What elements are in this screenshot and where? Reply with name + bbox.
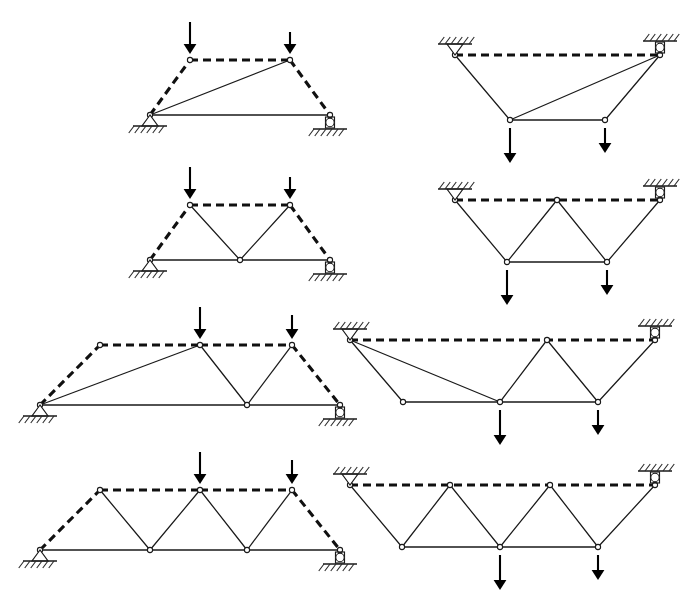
truss-row3-left-supports xyxy=(19,405,357,426)
truss-row3-right-loads xyxy=(494,410,605,445)
ground-hatch-line xyxy=(657,319,662,326)
ground-hatch-line xyxy=(25,416,30,423)
truss-joint xyxy=(497,399,502,404)
ground-hatch-line xyxy=(153,126,158,133)
truss-member-dashed xyxy=(150,205,190,260)
ground-hatch-line xyxy=(651,464,656,471)
truss-row4-right xyxy=(333,464,674,590)
ground-hatch-line xyxy=(349,419,354,426)
truss-joint xyxy=(447,482,452,487)
truss-member-solid xyxy=(607,200,660,262)
ground-hatch-line xyxy=(129,271,134,278)
truss-member-solid xyxy=(350,485,402,547)
ground-hatch-line xyxy=(321,129,326,136)
truss-row4-left-dashed-members xyxy=(40,490,340,550)
truss-member-solid xyxy=(200,490,247,550)
truss-row2-right-solid-members xyxy=(455,200,660,262)
truss-member-solid xyxy=(150,490,200,550)
truss-joint xyxy=(197,487,202,492)
truss-row4-left-supports xyxy=(19,550,357,571)
ground-hatch-line xyxy=(669,464,674,471)
truss-joint xyxy=(544,337,549,342)
truss-joint xyxy=(602,117,607,122)
truss-row4-left-loads xyxy=(194,452,299,484)
ground-hatch-line xyxy=(159,126,164,133)
pin-support-triangle xyxy=(342,474,358,485)
ground-hatch-line xyxy=(37,416,42,423)
truss-member-dashed xyxy=(40,345,100,405)
truss-row3-left-dashed-members xyxy=(40,345,340,405)
truss-member-solid xyxy=(507,200,557,262)
truss-joint xyxy=(147,547,152,552)
ground-hatch-line xyxy=(129,126,134,133)
ground-hatch-line xyxy=(325,419,330,426)
truss-member-solid xyxy=(350,340,500,402)
truss-row4-right-supports xyxy=(333,464,674,485)
ground-hatch-line xyxy=(645,464,650,471)
truss-row4-left-joints xyxy=(37,487,342,552)
truss-joint xyxy=(595,544,600,549)
ground-hatch-line xyxy=(639,464,644,471)
truss-joint xyxy=(187,202,192,207)
load-arrow-head xyxy=(592,570,605,580)
ground-hatch-line xyxy=(309,274,314,281)
ground-hatch-line xyxy=(469,182,474,189)
truss-row2-right xyxy=(438,179,679,305)
ground-hatch-line xyxy=(349,564,354,571)
ground-hatch-line xyxy=(650,179,655,186)
truss-joint xyxy=(604,259,609,264)
ground-hatch-line xyxy=(37,561,42,568)
ground-hatch-line xyxy=(141,271,146,278)
truss-row1-right xyxy=(438,34,679,163)
ground-hatch-line xyxy=(668,34,673,41)
truss-member-solid xyxy=(40,345,200,405)
truss-joint xyxy=(497,544,502,549)
ground-hatch-line xyxy=(445,182,450,189)
truss-member-solid xyxy=(450,485,500,547)
truss-row3-left-loads xyxy=(194,307,299,339)
truss-member-solid xyxy=(598,340,655,402)
load-arrow-head xyxy=(184,44,197,54)
roller-support-circle xyxy=(336,408,344,416)
pin-support-triangle xyxy=(447,44,463,55)
ground-hatch-line xyxy=(321,274,326,281)
ground-hatch-line xyxy=(315,274,320,281)
truss-row2-right-loads xyxy=(501,270,614,305)
ground-hatch-line xyxy=(334,467,339,474)
ground-hatch-line xyxy=(343,419,348,426)
ground-hatch-line xyxy=(331,564,336,571)
truss-row2-left-joints xyxy=(147,202,332,262)
truss-joint xyxy=(399,544,404,549)
truss-joint xyxy=(289,487,294,492)
truss-member-dashed xyxy=(290,205,330,260)
ground-hatch-line xyxy=(669,319,674,326)
ground-hatch-line xyxy=(319,419,324,426)
load-arrow-head xyxy=(501,295,514,305)
truss-row3-left-joints xyxy=(37,342,342,407)
load-arrow-head xyxy=(601,285,614,295)
ground-hatch-line xyxy=(147,126,152,133)
load-arrow-head xyxy=(194,474,207,484)
truss-member-solid xyxy=(598,485,655,547)
truss-row3-right-supports xyxy=(333,319,674,340)
truss-member-solid xyxy=(402,485,450,547)
ground-hatch-line xyxy=(346,467,351,474)
ground-hatch-line xyxy=(662,34,667,41)
truss-row1-left-joints xyxy=(147,57,332,117)
pin-support-triangle xyxy=(342,329,358,340)
truss-row1-left-supports xyxy=(129,115,347,136)
ground-hatch-line xyxy=(445,37,450,44)
truss-row3-left xyxy=(19,307,357,426)
load-arrow-head xyxy=(286,474,299,484)
truss-member-solid xyxy=(247,345,292,405)
pin-support-triangle xyxy=(32,405,48,416)
pin-support-triangle xyxy=(142,115,158,126)
roller-support-circle xyxy=(336,553,344,561)
truss-row1-left-solid-members xyxy=(150,60,330,115)
ground-hatch-line xyxy=(439,182,444,189)
roller-support-circle xyxy=(656,188,664,196)
truss-member-dashed xyxy=(292,345,340,405)
truss-member-solid xyxy=(605,55,660,120)
ground-hatch-line xyxy=(364,322,369,329)
truss-row2-left-solid-members xyxy=(150,205,330,260)
